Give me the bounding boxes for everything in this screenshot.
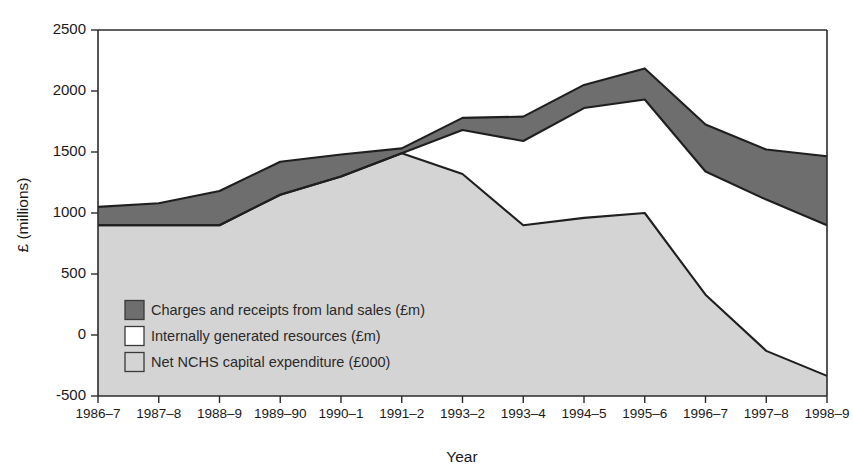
x-tick-label: 1993–2 [440,406,485,421]
x-tick-label: 1997–8 [744,406,789,421]
legend-label: Charges and receipts from land sales (£m… [151,302,425,318]
y-tick-label: 0 [78,325,86,342]
x-tick-label: 1993–4 [501,406,547,421]
x-tick-label: 1986–7 [75,406,120,421]
legend-swatch [125,301,144,320]
y-tick-label: -500 [56,386,86,403]
y-tick-label: 2500 [53,20,86,37]
x-tick-label: 1988–9 [197,406,242,421]
x-tick-label: 1991–2 [379,406,424,421]
legend-swatch [125,327,144,346]
x-axis-label: Year [446,448,477,465]
legend-swatch [125,353,144,372]
legend-label: Internally generated resources (£m) [151,328,381,344]
chart-legend: Charges and receipts from land sales (£m… [125,301,425,372]
y-tick-label: 2000 [53,81,86,98]
legend-label: Net NCHS capital expenditure (£000) [151,354,390,370]
x-tick-label: 1989–90 [254,406,307,421]
x-tick-label: 1995–6 [622,406,667,421]
y-tick-label: 1000 [53,203,86,220]
y-tick-label: 1500 [53,142,86,159]
x-tick-label: 1998–9 [804,406,849,421]
stacked-area-chart: -50005001000150020002500 1986–71987–8198… [0,0,853,476]
y-tick-label: 500 [61,264,86,281]
x-tick-label: 1990–1 [318,406,363,421]
x-tick-label: 1987–8 [136,406,181,421]
chart-container: -50005001000150020002500 1986–71987–8198… [0,0,853,476]
x-tick-label: 1996–7 [683,406,728,421]
y-axis-label: £ (millions) [14,178,31,253]
x-tick-label: 1994–5 [561,406,606,421]
